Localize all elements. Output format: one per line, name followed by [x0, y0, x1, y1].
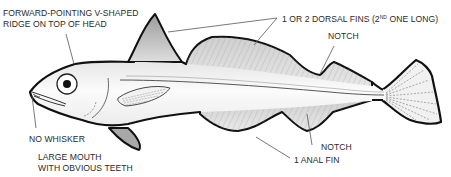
label-no-whisker-text: NO WHISKER — [29, 134, 85, 144]
label-v-ridge-line2: RIDGE ON TOP OF HEAD — [3, 19, 138, 30]
eye-icon — [57, 74, 77, 94]
tail-fin — [382, 60, 441, 124]
label-large-mouth-line1: LARGE MOUTH — [38, 152, 133, 163]
label-notch-top-text: NOTCH — [328, 31, 359, 41]
label-dorsal-superscript: ND — [380, 14, 387, 20]
label-anal-fin-text: 1 ANAL FIN — [294, 155, 340, 165]
label-large-mouth-line2: WITH OBVIOUS TEETH — [38, 163, 133, 174]
label-notch-bottom: NOTCH — [321, 142, 352, 153]
pelvic-fin — [109, 128, 140, 150]
label-v-ridge-line1: FORWARD-POINTING V-SHAPED — [3, 8, 138, 19]
label-notch-top: NOTCH — [328, 31, 359, 42]
label-dorsal-prefix: 1 OR 2 DORSAL FINS (2 — [282, 14, 380, 24]
leader-v-ridge — [66, 34, 74, 64]
label-large-mouth: LARGE MOUTH WITH OBVIOUS TEETH — [38, 152, 133, 173]
label-anal-fin: 1 ANAL FIN — [294, 155, 340, 166]
leader-anal-fin — [256, 137, 290, 158]
leader-dorsal-1 — [168, 18, 277, 32]
label-notch-bottom-text: NOTCH — [321, 142, 352, 152]
label-v-ridge: FORWARD-POINTING V-SHAPED RIDGE ON TOP O… — [3, 8, 138, 29]
label-dorsal-fins: 1 OR 2 DORSAL FINS (2ND ONE LONG) — [282, 12, 438, 25]
label-dorsal-suffix: ONE LONG) — [387, 14, 438, 24]
label-no-whisker: NO WHISKER — [29, 134, 85, 145]
leader-dorsal-2 — [254, 18, 277, 45]
